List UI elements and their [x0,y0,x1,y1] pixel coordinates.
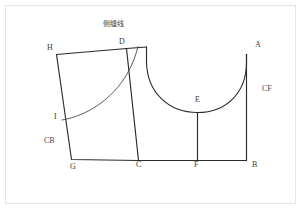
side-panel-outline [57,49,139,161]
point-label-B: B [252,161,257,169]
point-label-E: E [195,96,200,104]
side-panel-guide-curve [62,47,138,121]
drawing-canvas: 侧缝线 H D A E I G C F B CB CF [0,0,303,210]
pattern-drawing-svg [0,0,303,210]
point-label-A: A [255,41,261,49]
side-seam-annotation: 侧缝线 [103,21,124,28]
point-label-G: G [70,163,76,171]
point-label-I: I [54,113,57,121]
point-label-F: F [194,161,198,169]
neckline-curve [147,63,247,113]
point-label-D: D [119,38,125,46]
point-label-H: H [47,44,53,52]
point-label-C: C [136,161,141,169]
top-edge-d-to-shoulder [127,47,147,49]
segment-label-CF: CF [262,85,272,93]
segment-label-CB: CB [44,137,55,145]
